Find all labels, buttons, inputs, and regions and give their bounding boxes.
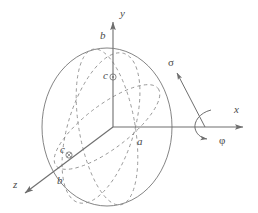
sigma-vector-line (177, 73, 205, 127)
rotation-label-phi: φ (219, 135, 225, 146)
c-lower-marker-icon (66, 152, 72, 158)
axis-label-z: z (13, 179, 17, 190)
vector-label-sigma: σ (168, 57, 174, 68)
semi-axis-label-c-lower: c (60, 144, 65, 155)
z-axis-line (25, 127, 113, 193)
diagram-canvas (0, 0, 258, 213)
axis-label-y: y (120, 8, 125, 19)
phi-rotation-arc (195, 110, 211, 139)
axis-label-x: x (234, 104, 239, 115)
semi-axis-label-c-upper: c (103, 70, 108, 81)
semi-axis-label-a-right: a (137, 136, 143, 147)
semi-axis-label-b-zfront: b (57, 175, 63, 186)
semi-axis-label-b-top: b (100, 30, 106, 41)
ellipsoid-rotation-diagram: y x z σ φ b c a c b (0, 0, 258, 213)
